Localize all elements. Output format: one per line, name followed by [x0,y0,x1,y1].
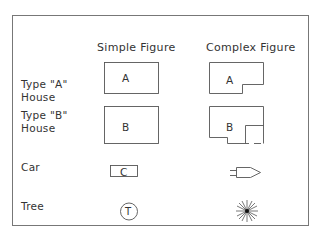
simple-house-a-letter: A [122,72,129,84]
simple-house-b-letter: B [122,121,130,133]
complex-house-b-inner-room [246,126,264,144]
complex-house-b-shape [210,107,264,144]
simple-house-b-rect [105,107,159,144]
simple-car-letter: C [120,166,128,178]
complex-car-prongs [230,171,237,176]
diagram-shapes [0,0,322,235]
complex-house-a-letter: A [226,74,233,86]
simple-tree-letter: T [125,206,131,218]
complex-car-body [237,168,261,178]
complex-house-b-letter: B [226,121,234,133]
complex-house-a-shape [210,63,264,94]
simple-house-a-rect [105,63,159,94]
